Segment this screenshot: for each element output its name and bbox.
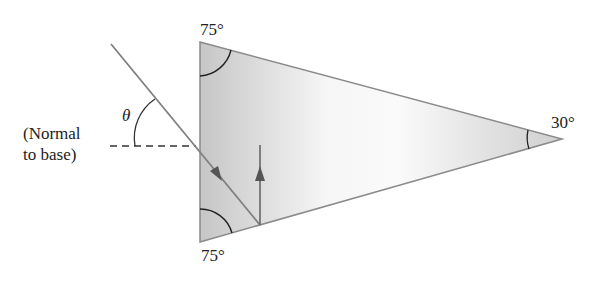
- prism-triangle: [200, 42, 562, 242]
- prism-diagram: 75° 75° 30° θ (Normal to base): [0, 0, 610, 282]
- theta-label: θ: [122, 106, 130, 125]
- apex-angle-label: 30°: [551, 113, 575, 132]
- top-angle-label: 75°: [200, 20, 224, 39]
- normal-label-line2: to base): [23, 145, 76, 164]
- normal-label-line1: (Normal: [23, 124, 81, 143]
- bottom-angle-label: 75°: [201, 246, 225, 265]
- theta-angle-arc: [134, 99, 155, 146]
- diagram-canvas: [0, 0, 610, 282]
